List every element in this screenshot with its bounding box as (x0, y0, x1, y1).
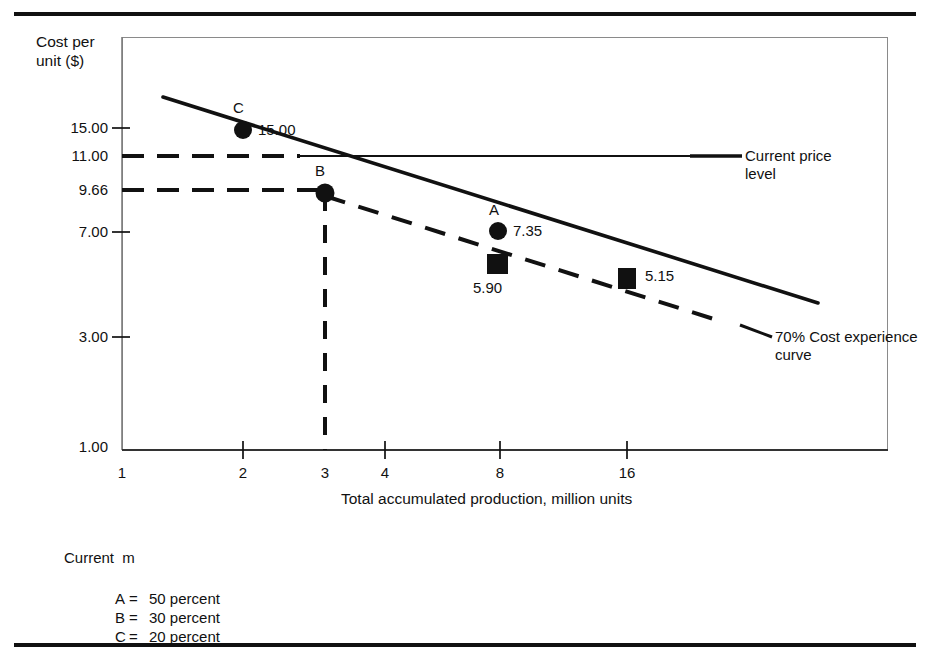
marker-point-b[interactable] (316, 184, 335, 203)
x-tick-label-16: 16 (612, 464, 642, 481)
legend-block: Current m A=50 percent B=30 percent C=20… (64, 548, 81, 658)
marker-square-515[interactable] (618, 268, 636, 289)
label-point-c-value: 15.00 (258, 121, 296, 138)
legend-key-c: C (115, 627, 129, 647)
annotation-current-price-line2: level (745, 165, 776, 183)
label-point-b-letter: B (315, 162, 325, 179)
x-tick-label-1: 1 (107, 464, 137, 481)
annotation-current-price-line1: Current price (745, 147, 832, 165)
label-value-590: 5.90 (473, 279, 502, 296)
label-point-a-value: 7.35 (513, 222, 542, 239)
legend-eq-c: = (129, 627, 149, 647)
experience-curve-dashed (325, 196, 720, 321)
marker-point-c[interactable] (234, 121, 252, 139)
y-tick-label-966: 9.66 (28, 181, 108, 198)
y-axis-title-line1: Cost per (36, 32, 95, 51)
label-point-c-letter: C (233, 99, 244, 116)
legend-title: Current m (64, 548, 135, 568)
label-value-515: 5.15 (645, 267, 674, 284)
label-point-a-letter: A (489, 201, 499, 218)
legend-row-c: C=20 percent (90, 607, 220, 658)
annotation-experience-curve-line1: 70% Cost experience (775, 328, 918, 346)
x-tick-label-8: 8 (485, 464, 515, 481)
y-axis-title-line2: unit ($) (36, 51, 84, 70)
marker-square-590[interactable] (487, 254, 508, 274)
annotation-experience-curve-line2: curve (775, 346, 812, 364)
y-tick-label-1: 1.00 (28, 438, 108, 455)
y-tick-label-15: 15.00 (28, 119, 108, 136)
y-tick-label-7: 7.00 (28, 223, 108, 240)
x-axis-title: Total accumulated production, million un… (341, 489, 632, 508)
x-tick-label-2: 2 (228, 464, 258, 481)
leader-line-curve-label (740, 325, 772, 337)
legend-text-c: 20 percent (149, 628, 220, 645)
y-tick-label-3: 3.00 (28, 328, 108, 345)
x-tick-label-4: 4 (370, 464, 400, 481)
x-tick-label-3: 3 (310, 464, 340, 481)
y-tick-label-11: 11.00 (28, 147, 108, 164)
marker-point-a[interactable] (489, 222, 507, 240)
figure-container: Cost per unit ($) 15.00 11.00 9.66 7.00 … (0, 0, 930, 658)
